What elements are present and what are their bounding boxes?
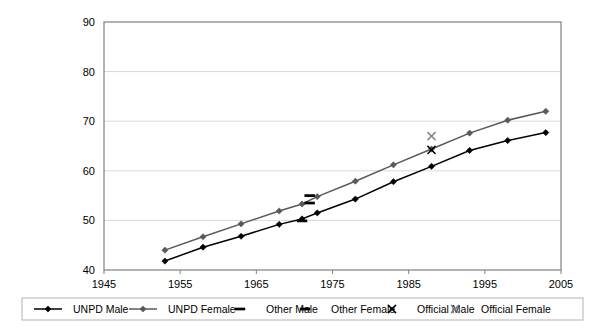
life-expectancy-line-chart: 405060708090 194519551965197519851995200… — [0, 0, 605, 332]
y-tick-label-70: 70 — [83, 115, 95, 127]
y-tick-label-80: 80 — [83, 66, 95, 78]
y-tick-label-60: 60 — [83, 165, 95, 177]
marker-dash — [304, 194, 314, 197]
x-tick-label-1945: 1945 — [92, 278, 116, 290]
legend-label: Other Female — [331, 303, 395, 315]
legend-label: Other Male — [266, 303, 318, 315]
x-tick-label-1975: 1975 — [320, 278, 344, 290]
x-tick-label-1955: 1955 — [168, 278, 192, 290]
chart-container: 405060708090 194519551965197519851995200… — [0, 0, 605, 332]
x-tick-label-1985: 1985 — [396, 278, 420, 290]
y-tick-label-90: 90 — [83, 16, 95, 28]
marker-dash — [304, 202, 314, 205]
x-tick-label-1965: 1965 — [244, 278, 268, 290]
legend-label: UNPD Female — [168, 303, 236, 315]
marker-dash — [297, 220, 307, 223]
y-tick-label-50: 50 — [83, 214, 95, 226]
x-tick-label-1995: 1995 — [473, 278, 497, 290]
marker-dash — [235, 308, 245, 311]
legend-label: Official Female — [481, 303, 551, 315]
y-tick-label-40: 40 — [83, 264, 95, 276]
legend-label: UNPD Male — [73, 303, 129, 315]
series-other-male — [297, 220, 307, 223]
legend-label: Official Male — [417, 303, 475, 315]
chart-legend: UNPD MaleUNPD FemaleOther MaleOther Fema… — [22, 298, 583, 320]
x-tick-label-2005: 2005 — [549, 278, 573, 290]
marker-dash — [300, 308, 310, 311]
